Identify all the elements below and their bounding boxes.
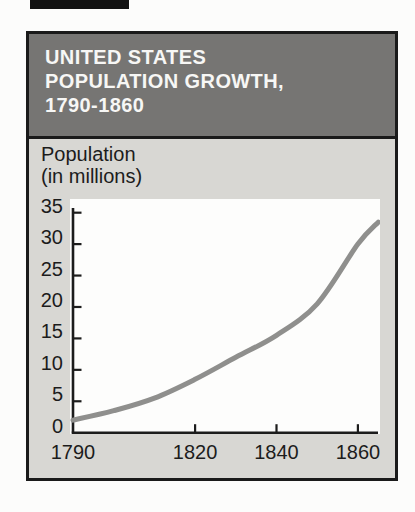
x-axis-label-1840: 1840: [245, 440, 309, 464]
chart-body: Population (in millions) 05101520253035 …: [29, 139, 395, 478]
y-axis-title: Population (in millions): [41, 143, 142, 187]
x-axis-label-1820: 1820: [163, 440, 227, 464]
x-axis-label-1790: 1790: [41, 440, 105, 464]
y-axis-title-line-2: (in millions): [41, 165, 142, 187]
chart-header: UNITED STATES POPULATION GROWTH, 1790-18…: [29, 34, 395, 139]
y-axis-label-35: 35: [29, 195, 63, 217]
y-axis-label-5: 5: [29, 383, 63, 405]
y-axis-label-15: 15: [29, 320, 63, 342]
chart-card: UNITED STATES POPULATION GROWTH, 1790-18…: [26, 31, 398, 481]
chart-title-line-1: UNITED STATES: [45, 45, 385, 69]
y-axis-label-0: 0: [29, 415, 63, 437]
chart-title-line-2: POPULATION GROWTH,: [45, 69, 385, 93]
y-axis-title-line-1: Population: [41, 143, 142, 165]
chart-title-line-3: 1790-1860: [45, 93, 385, 117]
y-axis-label-10: 10: [29, 352, 63, 374]
y-axis-label-20: 20: [29, 289, 63, 311]
population-growth-curve: [73, 222, 378, 420]
scan-artifact-bar: [30, 0, 129, 9]
y-axis-label-25: 25: [29, 258, 63, 280]
x-axis-label-1860: 1860: [326, 440, 390, 464]
plot-area: [70, 199, 380, 434]
y-axis-label-30: 30: [29, 226, 63, 248]
scanned-page: UNITED STATES POPULATION GROWTH, 1790-18…: [0, 0, 415, 512]
population-curve-svg: [70, 199, 380, 434]
